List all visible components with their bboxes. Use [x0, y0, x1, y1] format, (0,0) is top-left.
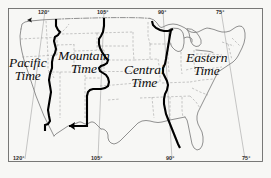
- zone-label-central-line2: Time: [124, 76, 165, 89]
- meridian-label-top-75: 75°: [216, 9, 224, 15]
- zone-label-eastern-line2: Time: [186, 64, 227, 77]
- zone-label-eastern: Eastern Time: [186, 51, 227, 77]
- zone-label-mountain: Mountain Time: [58, 49, 110, 75]
- zone-label-mountain-line2: Time: [58, 62, 110, 75]
- zone-label-pacific-line2: Time: [9, 69, 47, 82]
- meridian-label-bottom-90: 90°: [166, 155, 174, 161]
- meridian-label-bottom-120: 120°: [13, 155, 25, 161]
- meridian-label-bottom-75: 75°: [242, 155, 250, 161]
- zone-label-pacific: Pacific Time: [9, 56, 47, 82]
- meridian-label-top-90: 90°: [158, 9, 166, 15]
- zone-label-central: Central Time: [124, 63, 165, 89]
- time-zone-map: Pacific Time Mountain Time Central Time …: [0, 0, 271, 178]
- meridian-label-bottom-105: 105°: [91, 155, 103, 161]
- meridian-label-top-120: 120°: [38, 9, 50, 15]
- meridian-label-top-105: 105°: [97, 9, 109, 15]
